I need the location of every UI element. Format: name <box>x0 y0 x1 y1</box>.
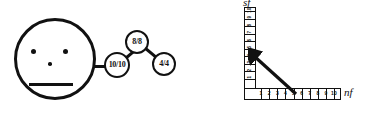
node-a[interactable]: 10/10 <box>104 52 130 78</box>
screenshot-root: 10/10 8/8 4/4 sf nf 12345678910 12345678… <box>0 0 371 121</box>
chart-panel: sf nf 12345678910 12345678910 <box>186 0 371 121</box>
face-outline <box>14 18 96 100</box>
face-node-diagram: 10/10 8/8 4/4 <box>0 0 186 121</box>
y-tick-label: 10 <box>248 5 253 15</box>
right-eye-icon <box>63 49 68 54</box>
mouth-icon <box>29 83 73 86</box>
node-b[interactable]: 8/8 <box>125 30 149 54</box>
node-c[interactable]: 4/4 <box>152 52 176 76</box>
trend-arrow-icon <box>248 48 308 98</box>
x-axis-label: nf <box>344 86 353 98</box>
left-eye-icon <box>31 49 36 54</box>
nose-icon <box>48 62 52 66</box>
x-tick-label: 10 <box>329 91 338 96</box>
